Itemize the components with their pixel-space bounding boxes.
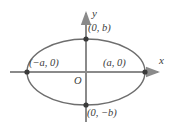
label-left-vertex: (−a, 0) (29, 58, 59, 69)
marker-top-vertex (83, 36, 88, 41)
label-x-axis: x (159, 55, 164, 66)
marker-right-vertex (142, 69, 147, 74)
label-right-vertex: (a, 0) (103, 58, 126, 69)
label-top-vertex: (0, b) (88, 23, 111, 34)
label-origin: O (74, 76, 82, 87)
ellipse-figure: (0, b) (−a, 0) (a, 0) (0, −b) O y x (0, 0, 173, 134)
label-bottom-vertex: (0, −b) (87, 108, 117, 119)
marker-left-vertex (24, 69, 29, 74)
label-y-axis: y (92, 8, 97, 19)
